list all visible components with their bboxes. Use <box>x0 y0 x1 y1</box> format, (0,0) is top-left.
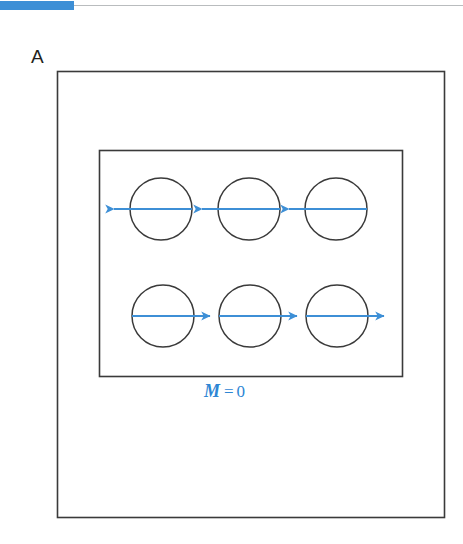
domain-bottom-right <box>306 285 384 347</box>
outer-sample-boundary <box>58 72 445 518</box>
magnetic-domains-diagram <box>0 0 463 544</box>
figure-stage <box>0 0 463 544</box>
magnetization-symbol: M <box>204 381 220 401</box>
magnetization-relation: = <box>220 382 237 401</box>
domain-top-right <box>289 178 367 240</box>
magnetization-value: 0 <box>237 382 246 401</box>
domain-top-center <box>202 178 280 240</box>
domain-top-left <box>114 178 192 240</box>
inner-domain-boundary <box>100 151 403 377</box>
domains-group <box>114 178 384 347</box>
magnetization-caption: M=0 <box>204 382 314 400</box>
domain-bottom-left <box>132 285 210 347</box>
domain-bottom-center <box>219 285 297 347</box>
